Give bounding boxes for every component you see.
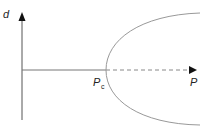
- critical-point-label: P: [93, 76, 101, 88]
- upper-branch: [106, 13, 200, 70]
- bifurcation-diagram: d P P c: [0, 0, 213, 128]
- d-axis-arrow-icon: [19, 12, 26, 21]
- p-axis-arrow-icon: [189, 66, 197, 74]
- lower-branch: [106, 70, 200, 125]
- critical-point-subscript: c: [101, 83, 105, 90]
- d-axis-label: d: [3, 8, 10, 20]
- p-axis-label: P: [190, 76, 198, 88]
